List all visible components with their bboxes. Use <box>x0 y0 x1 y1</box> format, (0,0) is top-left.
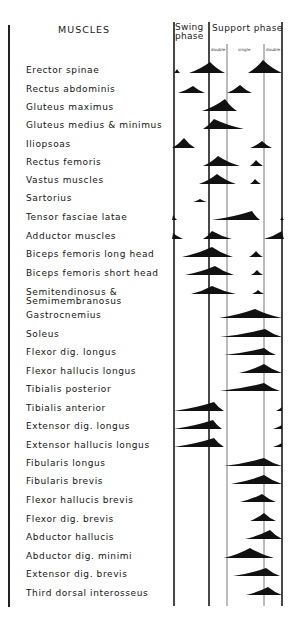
activity-burst-shape <box>203 231 232 239</box>
activity-row <box>193 199 207 202</box>
activity-burst-shape <box>199 174 236 184</box>
activity-row <box>202 99 237 111</box>
activity-row <box>174 60 282 73</box>
activity-burst-shape <box>251 270 263 275</box>
activity-burst-shape <box>250 160 263 166</box>
activity-burst-shape <box>178 86 205 93</box>
activity-burst-shape <box>233 568 280 576</box>
activity-row <box>174 438 282 447</box>
activity-row <box>224 548 274 558</box>
activity-row <box>178 85 252 93</box>
activity-burst-shape <box>189 62 225 73</box>
activity-burst-shape <box>172 233 183 239</box>
activity-burst-shape <box>224 458 282 466</box>
activity-row <box>224 458 282 466</box>
activity-row <box>203 156 263 166</box>
activity-row <box>231 475 282 484</box>
activity-burst-shape <box>245 530 282 539</box>
activity-burst-shape <box>191 286 236 294</box>
activity-row <box>239 364 282 373</box>
activity-row <box>185 266 263 275</box>
activity-burst-shape <box>220 383 280 391</box>
activity-burst-shape <box>250 513 276 521</box>
activity-burst-shape <box>224 348 276 355</box>
activity-burst-shape <box>174 438 224 447</box>
activity-row <box>233 568 280 576</box>
activity-burst-shape <box>248 60 282 73</box>
activity-burst-shape <box>220 329 282 337</box>
activity-burst-shape <box>212 211 260 220</box>
activity-row <box>250 513 276 521</box>
activity-burst-shape <box>273 443 282 447</box>
activity-row <box>174 420 282 429</box>
activity-burst-shape <box>193 199 207 202</box>
activity-burst-shape <box>174 420 222 429</box>
activity-row <box>191 286 264 294</box>
activity-burst-shape <box>182 247 233 257</box>
activity-row <box>182 247 263 257</box>
activity-burst-shape <box>239 364 282 373</box>
activity-burst-shape <box>252 290 264 294</box>
activity-burst-shape <box>250 179 261 184</box>
activity-burst-shape <box>264 231 284 239</box>
activity-burst-shape <box>202 99 237 111</box>
activity-burst-shape <box>249 251 263 257</box>
activity-burst-shape <box>174 69 180 73</box>
activity-row <box>220 329 282 337</box>
activity-burst-shape <box>224 548 274 558</box>
activity-burst-shape <box>250 141 272 148</box>
activity-burst-shape <box>240 494 276 502</box>
activity-burst-shape <box>276 407 282 411</box>
activity-row <box>174 402 282 411</box>
activity-burst-shape <box>227 85 252 93</box>
activity-row <box>219 309 282 318</box>
activity-burst-shape <box>231 475 282 484</box>
gait-activity-chart <box>0 0 302 621</box>
activity-burst-shape <box>280 217 284 220</box>
activity-row <box>224 348 276 355</box>
activity-row <box>172 231 284 239</box>
activity-row <box>240 494 276 502</box>
activity-burst-shape <box>172 138 195 148</box>
activity-burst-shape <box>174 402 224 411</box>
activity-row <box>220 383 280 391</box>
activity-row <box>172 138 272 148</box>
activity-row <box>245 530 282 539</box>
activity-row <box>172 211 284 220</box>
activity-burst-shape <box>219 309 282 318</box>
activity-burst-shape <box>273 425 282 429</box>
